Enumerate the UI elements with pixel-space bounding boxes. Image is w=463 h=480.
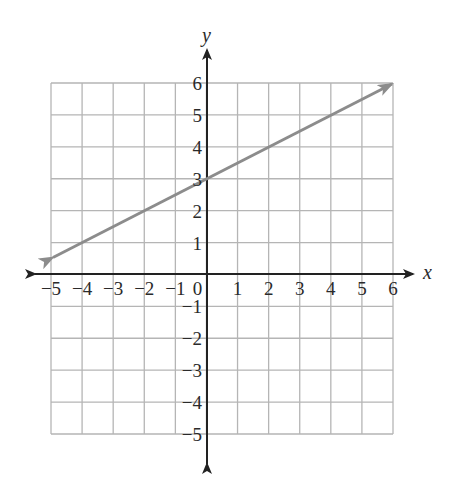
x-tick-label: −4 (72, 278, 93, 299)
x-tick-label: 6 (388, 278, 398, 299)
y-tick-label: −2 (182, 328, 202, 349)
x-tick-label: 1 (233, 278, 243, 299)
y-tick-label: 2 (193, 201, 203, 222)
y-tick-label: −1 (182, 296, 202, 317)
y-tick-label: −5 (182, 424, 202, 445)
y-tick-label: 1 (193, 233, 203, 254)
plotted-line (53, 84, 392, 258)
x-tick-label: 5 (357, 278, 367, 299)
y-tick-label: 4 (193, 137, 203, 158)
x-tick-label: 3 (295, 278, 305, 299)
x-tick-label: 4 (326, 278, 336, 299)
x-tick-label: 2 (264, 278, 274, 299)
x-tick-label: −2 (134, 278, 154, 299)
y-tick-label: 3 (193, 169, 203, 190)
coordinate-plane: −5−4−3−2−10123456 654321−1−2−3−4−5 x y (0, 0, 463, 480)
grid (51, 83, 393, 434)
y-tick-label: 6 (193, 73, 203, 94)
x-tick-label: −5 (41, 278, 61, 299)
y-tick-label: 5 (193, 105, 203, 126)
x-axis-label: x (422, 261, 432, 283)
x-tick-labels: −5−4−3−2−10123456 (41, 278, 398, 299)
y-tick-label: −3 (182, 360, 202, 381)
y-axis-label: y (200, 24, 211, 47)
y-tick-label: −4 (182, 392, 203, 413)
y-tick-labels: 654321−1−2−3−4−5 (182, 73, 203, 445)
x-tick-label: −3 (103, 278, 123, 299)
